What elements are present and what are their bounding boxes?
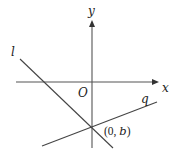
coordinate-diagram: y x O l q (0, b) [0,0,186,160]
intersection-label: (0, b) [104,124,131,138]
line-l-label: l [11,45,15,59]
origin-label: O [78,86,88,100]
x-axis-label: x [162,81,169,95]
line-l [20,59,113,148]
y-axis-arrow-icon [89,20,95,27]
y-axis-label: y [87,4,95,18]
line-q-label: q [141,92,149,106]
line-q [42,102,157,146]
intersection-label-var: b [119,124,126,138]
intersection-label-suffix: ) [127,125,131,138]
intersection-label-prefix: (0, [104,125,119,138]
x-axis-arrow-icon [152,79,159,85]
